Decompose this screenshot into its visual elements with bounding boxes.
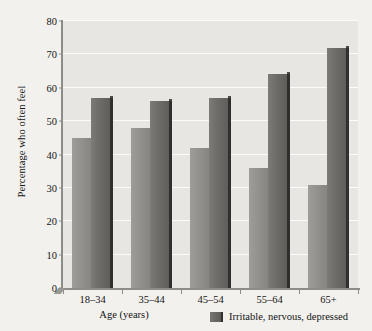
legend-label: Irritable, nervous, depressed — [229, 311, 348, 322]
y-axis-tick-mark — [59, 54, 63, 55]
bar — [72, 138, 91, 288]
x-axis-tick-mark — [299, 290, 300, 294]
bar — [327, 48, 346, 288]
bar-side-shadow — [346, 48, 349, 288]
y-axis-tick-label: 80 — [33, 16, 57, 27]
y-axis-tick-mark — [59, 87, 63, 88]
y-axis-tick-mark — [59, 288, 63, 289]
bar-face — [249, 168, 268, 288]
x-axis-category-label: 35–44 — [138, 294, 164, 305]
y-axis-tick-label: 40 — [33, 149, 57, 160]
bar-side-shadow — [169, 101, 172, 288]
x-axis-category-label: 18–34 — [79, 294, 105, 305]
bar-chart: Percentage who often feel 01020304050607… — [0, 0, 372, 331]
bar-face — [308, 185, 327, 288]
gridline — [63, 20, 358, 21]
y-axis-tick-mark — [59, 221, 63, 222]
x-axis-tick-mark — [240, 290, 241, 294]
bar — [91, 98, 110, 288]
bar-face — [327, 48, 346, 288]
bar-side-shadow — [228, 98, 231, 288]
x-axis-category-label: 55–64 — [256, 294, 282, 305]
bar — [190, 148, 209, 288]
bar — [131, 128, 150, 288]
bar-top-cap — [228, 96, 231, 98]
x-axis-tick-mark — [122, 290, 123, 294]
y-axis-tick-mark — [59, 121, 63, 122]
bar — [308, 185, 327, 288]
bar-face — [190, 148, 209, 288]
bar-side-shadow — [287, 74, 290, 288]
x-axis-category-label: 45–54 — [197, 294, 223, 305]
legend-swatch-icon — [210, 312, 223, 322]
y-axis-tick-label: 70 — [33, 49, 57, 60]
gridline — [63, 53, 358, 54]
bar — [268, 74, 287, 288]
bar-top-cap — [169, 99, 172, 101]
x-axis-tick-mark — [63, 290, 64, 294]
bar-top-cap — [346, 46, 349, 48]
bar — [249, 168, 268, 288]
y-axis-tick-label: 10 — [33, 249, 57, 260]
plot-area — [63, 21, 358, 288]
bar-face — [72, 138, 91, 288]
y-axis-tick-mark — [59, 154, 63, 155]
x-axis-tick-mark — [181, 290, 182, 294]
bar-face — [268, 74, 287, 288]
bar — [150, 101, 169, 288]
y-axis-tick-mark — [59, 21, 63, 22]
bar-side-shadow — [110, 98, 113, 288]
y-axis-tick-label: 50 — [33, 116, 57, 127]
x-axis-line — [61, 288, 360, 290]
y-axis-tick-label: 60 — [33, 82, 57, 93]
gridline — [63, 87, 358, 88]
y-axis-tick-mark — [59, 187, 63, 188]
bar-top-cap — [287, 72, 290, 74]
x-axis-category-label: 65+ — [320, 294, 336, 305]
bar-face — [150, 101, 169, 288]
y-axis-title: Percentage who often feel — [16, 52, 27, 232]
legend: Irritable, nervous, depressed — [210, 311, 348, 322]
y-axis-tick-label: 30 — [33, 182, 57, 193]
bar-face — [131, 128, 150, 288]
y-axis-tick-label: 20 — [33, 216, 57, 227]
bar-top-cap — [110, 96, 113, 98]
y-axis-tick-mark — [59, 254, 63, 255]
x-axis-tick-mark — [358, 290, 359, 294]
bar-face — [209, 98, 228, 288]
bar — [209, 98, 228, 288]
x-axis-title-text: Age (years) — [99, 309, 148, 320]
bar-face — [91, 98, 110, 288]
y-axis-tick-label: 0 — [33, 283, 57, 294]
